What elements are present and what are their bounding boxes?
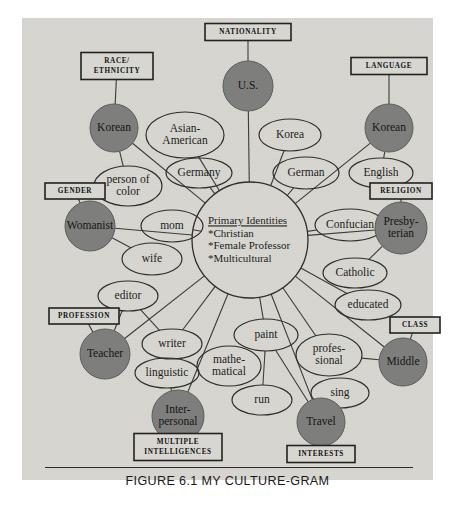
edge-class-to-middle <box>410 333 412 339</box>
node-educated[interactable]: educated <box>335 290 401 320</box>
node-teacher[interactable]: Teacher <box>80 329 130 379</box>
node-run[interactable]: run <box>232 385 292 415</box>
category-box-profession[interactable]: PROFESSION <box>49 308 119 324</box>
caption-rule <box>45 467 413 468</box>
node-label: English <box>363 166 398 179</box>
edge-english-to-korean-language <box>384 152 385 158</box>
node-linguistic[interactable]: linguistic <box>135 358 199 388</box>
culture-gram-figure: Primary Identities*Christian*Female Prof… <box>0 0 453 512</box>
node-label: mom <box>160 219 184 231</box>
node-korean-language[interactable]: Korean <box>365 104 413 152</box>
node-germany[interactable]: Germany <box>166 158 232 188</box>
category-box-nationality[interactable]: NATIONALITY <box>205 24 291 41</box>
category-box-interests[interactable]: INTERESTS <box>287 446 355 463</box>
edge-professional-to-middle <box>362 358 379 360</box>
edge-wife-to-womanist <box>112 238 131 248</box>
node-label: Womanist <box>67 219 114 231</box>
node-layer: Primary Identities*Christian*Female Prof… <box>65 61 427 446</box>
edge-confucian-to-center <box>307 230 316 231</box>
node-us[interactable]: U.S. <box>223 61 273 111</box>
edge-writer-to-center <box>183 286 216 330</box>
edge-catholic-to-presbyterian <box>369 246 383 259</box>
node-label: wife <box>142 252 162 264</box>
node-wife[interactable]: wife <box>122 243 182 275</box>
category-box-class[interactable]: CLASS <box>390 317 440 333</box>
edge-person-of-color-to-korean-race <box>120 151 124 166</box>
node-label: Catholic <box>336 266 375 278</box>
node-korea[interactable]: Korea <box>259 119 321 151</box>
edge-interpersonal-to-center <box>188 294 228 392</box>
node-womanist[interactable]: Womanist <box>65 201 115 251</box>
node-travel[interactable]: Travel <box>297 398 345 446</box>
category-box-language[interactable]: LANGUAGE <box>351 58 427 75</box>
node-label: Korean <box>372 121 406 133</box>
node-label: person ofcolor <box>106 172 149 196</box>
node-label: Travel <box>306 415 336 427</box>
node-mathematical[interactable]: mathe-matical <box>197 346 261 386</box>
node-label: profes-sional <box>313 341 346 365</box>
node-professional[interactable]: profes-sional <box>296 334 362 376</box>
node-label: educated <box>348 298 389 310</box>
node-asian-american[interactable]: Asian-American <box>146 112 224 158</box>
category-label: GENDER <box>58 187 93 195</box>
node-label: German <box>287 166 324 178</box>
node-korean-race[interactable]: Korean <box>90 104 138 152</box>
node-middle[interactable]: Middle <box>379 338 427 386</box>
node-writer[interactable]: writer <box>142 329 202 359</box>
node-presbyterian[interactable]: Presby-terian <box>375 202 427 254</box>
node-editor[interactable]: editor <box>98 281 158 311</box>
node-label: writer <box>158 337 186 349</box>
category-label: CLASS <box>402 321 428 329</box>
node-label: mathe-matical <box>212 352 246 376</box>
node-label: Korean <box>97 121 131 133</box>
node-label: Korea <box>276 128 304 140</box>
category-label: INTERESTS <box>298 450 344 458</box>
category-label: NATIONALITY <box>219 28 277 36</box>
edge-race-ethnicity-to-korean-race <box>115 80 116 105</box>
edge-paint-to-center <box>260 297 264 319</box>
node-label: run <box>254 393 270 405</box>
node-confucian[interactable]: Confucian <box>315 209 385 241</box>
node-label: Confucian <box>326 218 374 230</box>
edge-german-to-center <box>287 188 293 196</box>
edge-professional-to-center <box>283 288 316 336</box>
edge-mom-to-center <box>193 230 201 232</box>
node-label: editor <box>115 289 142 301</box>
node-label: linguistic <box>146 366 189 379</box>
node-label: Middle <box>386 355 419 367</box>
edge-travel-to-center <box>271 294 312 400</box>
figure-caption: FIGURE 6.1 MY CULTURE-GRAM <box>22 474 433 488</box>
edge-profession-to-teacher <box>88 324 92 332</box>
edge-run-to-paint <box>263 351 265 385</box>
category-box-multiple-intelligences[interactable]: MULTIPLEINTELLIGENCES <box>134 434 222 461</box>
category-box-gender[interactable]: GENDER <box>45 183 105 199</box>
node-label: Germany <box>178 166 221 179</box>
node-label: Presby-terian <box>383 214 418 238</box>
center-node-label: Primary Identities*Christian*Female Prof… <box>208 214 291 263</box>
edge-us-to-center <box>248 111 249 182</box>
edge-germany-to-center <box>210 187 215 194</box>
node-label: Asian-American <box>162 121 208 145</box>
node-label: Teacher <box>87 347 123 359</box>
node-german[interactable]: German <box>273 157 339 189</box>
category-box-race-ethnicity[interactable]: RACE/ETHNICITY <box>81 53 153 80</box>
category-box-religion[interactable]: RELIGION <box>370 183 432 199</box>
node-label: U.S. <box>238 79 259 91</box>
category-label: LANGUAGE <box>366 62 412 70</box>
node-primary-identities[interactable]: Primary Identities*Christian*Female Prof… <box>192 182 308 298</box>
node-paint[interactable]: paint <box>234 319 298 351</box>
category-label: RELIGION <box>380 187 422 195</box>
node-catholic[interactable]: Catholic <box>323 258 387 288</box>
node-label: paint <box>255 328 279 341</box>
culture-gram-diagram: Primary Identities*Christian*Female Prof… <box>22 18 433 480</box>
node-label: sing <box>330 386 349 399</box>
category-label: PROFESSION <box>58 312 110 320</box>
